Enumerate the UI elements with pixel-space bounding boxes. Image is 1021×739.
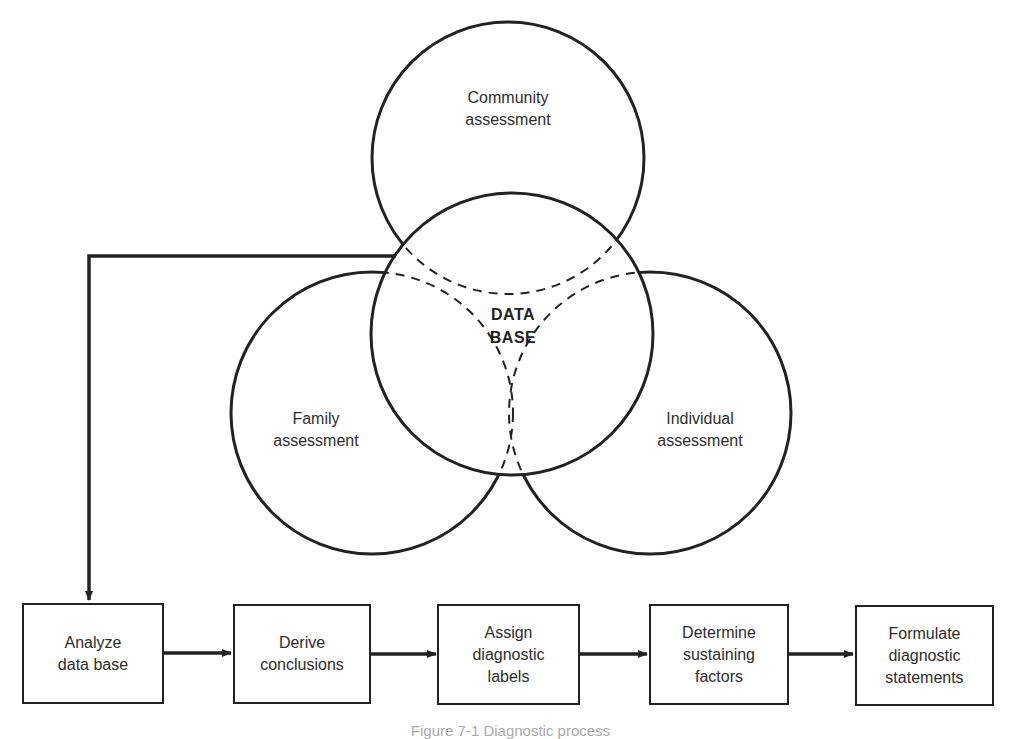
- individual-assessment-label: Individual assessment: [657, 408, 742, 452]
- community-circle: [372, 22, 644, 294]
- family-assessment-label: Family assessment: [273, 408, 358, 452]
- data-base-label: DATA BASE: [490, 303, 536, 349]
- step-assign-diagnostic-labels: Assign diagnostic labels: [437, 604, 580, 705]
- step-determine-sustaining-factors: Determine sustaining factors: [649, 604, 789, 705]
- figure-caption: Figure 7-1 Diagnostic process: [411, 722, 610, 739]
- step-derive-conclusions: Derive conclusions: [233, 604, 371, 704]
- step-analyze-data-base: Analyze data base: [22, 603, 164, 704]
- individual-circle: [509, 272, 791, 554]
- community-assessment-label: Community assessment: [465, 87, 550, 131]
- step-formulate-diagnostic-statements: Formulate diagnostic statements: [855, 605, 994, 706]
